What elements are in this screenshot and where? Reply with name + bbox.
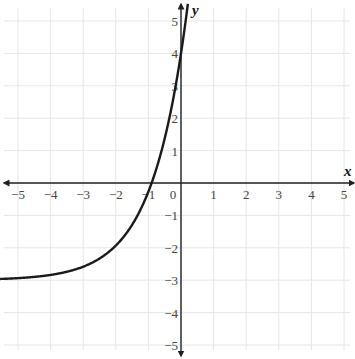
y-tick-label: 1 bbox=[172, 144, 179, 159]
y-tick-label: −2 bbox=[164, 241, 178, 256]
x-tick-label: −3 bbox=[76, 187, 90, 202]
x-tick-label: 3 bbox=[276, 187, 283, 202]
y-tick-label: −1 bbox=[164, 208, 178, 223]
x-tick-label: 2 bbox=[243, 187, 250, 202]
y-tick-label: 2 bbox=[172, 111, 179, 126]
x-tick-label: 5 bbox=[341, 187, 348, 202]
x-axis-label: x bbox=[343, 163, 352, 179]
x-tick-label: −5 bbox=[11, 187, 25, 202]
y-axis-label: y bbox=[190, 2, 199, 18]
y-tick-label: −4 bbox=[164, 306, 178, 321]
y-tick-label: −3 bbox=[164, 273, 178, 288]
exponential-curve bbox=[0, 4, 188, 279]
y-tick-label: −5 bbox=[164, 338, 178, 353]
x-tick-label: 1 bbox=[210, 187, 217, 202]
x-tick-label: −4 bbox=[44, 187, 58, 202]
x-tick-label: 4 bbox=[308, 187, 315, 202]
y-tick-label: 4 bbox=[172, 46, 179, 61]
x-tick-label: 0 bbox=[170, 187, 177, 202]
coordinate-plane: −5−4−3−2−1012345 −5−4−3−2−112345 x y bbox=[0, 0, 355, 359]
y-tick-label: 5 bbox=[172, 14, 179, 29]
x-tick-labels: −5−4−3−2−1012345 bbox=[11, 187, 347, 202]
x-tick-label: −2 bbox=[109, 187, 123, 202]
